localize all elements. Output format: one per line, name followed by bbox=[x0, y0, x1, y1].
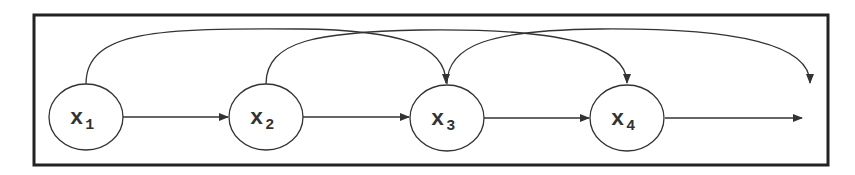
node-x2-subscript: 2 bbox=[265, 117, 274, 134]
arc-x3-out bbox=[447, 29, 810, 84]
node-x2: x2 bbox=[229, 84, 303, 150]
node-x4-label: x bbox=[611, 107, 624, 132]
node-x3-label: x bbox=[431, 107, 444, 132]
node-x4-subscript: 4 bbox=[626, 118, 635, 135]
node-x3-subscript: 3 bbox=[446, 118, 455, 135]
node-x1-label: x bbox=[70, 106, 83, 131]
arc-x2-x4 bbox=[266, 30, 627, 84]
arc-x1-x3 bbox=[86, 29, 446, 84]
node-x1-subscript: 1 bbox=[85, 117, 94, 134]
node-x1: x1 bbox=[49, 84, 123, 150]
node-x4: x4 bbox=[590, 85, 664, 151]
node-x2-label: x bbox=[250, 106, 263, 131]
diagram-canvas: x1 x2 x3 x4 bbox=[0, 0, 855, 175]
node-x3: x3 bbox=[410, 85, 484, 151]
